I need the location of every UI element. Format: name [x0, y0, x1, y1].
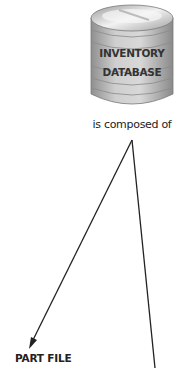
arrowhead-icon: [29, 337, 37, 349]
connector-lines: [0, 0, 181, 368]
connector-line-part-file: [31, 140, 132, 344]
connector-line-offscreen: [132, 140, 155, 368]
part-file-label: PART FILE: [15, 352, 71, 364]
